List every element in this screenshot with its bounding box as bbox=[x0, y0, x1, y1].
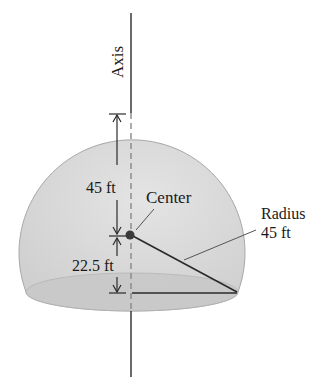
radius-label: Radius bbox=[261, 205, 305, 222]
radius-value-label: 45 ft bbox=[261, 224, 291, 241]
center-label: Center bbox=[146, 188, 192, 207]
dim-label-22-5ft: 22.5 ft bbox=[72, 257, 114, 274]
dim-label-45ft: 45 ft bbox=[86, 179, 116, 196]
dome-diagram: Axis 45 ft 22.5 ft Center Radius 45 ft bbox=[0, 0, 324, 382]
center-point bbox=[126, 231, 135, 240]
axis-label: Axis bbox=[108, 46, 127, 78]
base-ellipse bbox=[26, 273, 238, 311]
